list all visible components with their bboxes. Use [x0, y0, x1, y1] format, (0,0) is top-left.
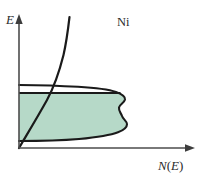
x-axis-label-e: E — [170, 158, 179, 173]
material-label: Ni — [117, 15, 130, 29]
x-axis-arrow-icon — [185, 144, 195, 151]
y-axis-arrow-icon — [15, 14, 22, 24]
y-axis-label: E — [5, 12, 14, 27]
density-of-states-figure: E N(E) Ni — [0, 0, 206, 176]
x-axis-label-close-paren: ) — [179, 158, 183, 173]
x-axis-label: N(E) — [157, 158, 183, 173]
